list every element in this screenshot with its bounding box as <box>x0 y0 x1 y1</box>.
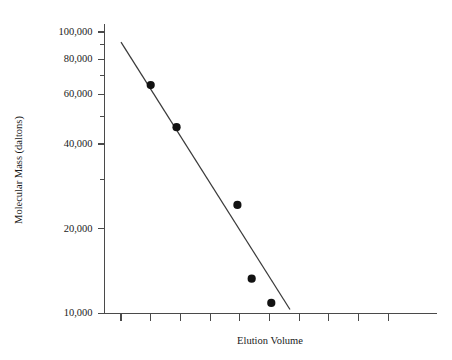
y-axis-tick-label: 20,000 <box>64 223 93 234</box>
y-axis-title: Molecular Mass (daltons) <box>13 116 25 224</box>
data-point <box>147 81 155 89</box>
chart-container: 100,00080,00060,00040,00020,00010,000 El… <box>0 0 452 360</box>
y-axis-tick-label: 40,000 <box>64 138 93 149</box>
y-axis-ticks <box>98 32 105 314</box>
y-axis-tick-label: 80,000 <box>64 53 93 64</box>
y-axis-tick-label: 100,000 <box>58 26 92 37</box>
x-axis-title: Elution Volume <box>237 335 303 346</box>
data-point <box>267 299 275 307</box>
y-axis-tick-label: 60,000 <box>64 88 93 99</box>
calibration-trend-line <box>121 42 290 309</box>
data-point <box>172 123 180 131</box>
y-axis-tick-label: 10,000 <box>64 307 93 318</box>
data-point <box>233 201 241 209</box>
y-axis-tick-labels: 100,00080,00060,00040,00020,00010,000 <box>58 26 92 319</box>
data-point <box>248 275 256 283</box>
data-point-group <box>147 81 276 307</box>
x-axis-ticks <box>121 314 388 321</box>
molecular-mass-elution-volume-chart: 100,00080,00060,00040,00020,00010,000 El… <box>0 0 452 360</box>
